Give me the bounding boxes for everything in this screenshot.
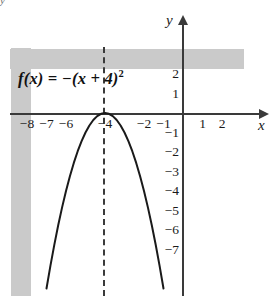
y-tick-label: −1 xyxy=(157,125,179,141)
y-tick-label: −3 xyxy=(157,164,179,180)
function-equation-label: f(x) = −(x + 4)2 xyxy=(18,68,124,89)
y-tick-label: −7 xyxy=(157,242,179,258)
x-tick-label: −4 xyxy=(94,116,116,132)
parabola-curve xyxy=(0,0,275,296)
function-equation-text: f(x) = −(x + 4) xyxy=(18,69,119,88)
function-equation-exponent: 2 xyxy=(119,68,124,79)
y-tick-label: −5 xyxy=(157,203,179,219)
y-tick-label: −6 xyxy=(157,222,179,238)
y-tick-label: 1 xyxy=(157,86,179,102)
y-tick-label: −4 xyxy=(157,183,179,199)
y-tick-label: −2 xyxy=(157,144,179,160)
graph-figure: y y x −8−7−6−4−2−112 21−1−2−3−4−5−6−7 f(… xyxy=(0,0,275,296)
x-tick-label: 2 xyxy=(211,116,233,132)
x-tick-label: −6 xyxy=(55,116,77,132)
y-tick-label: 2 xyxy=(157,66,179,82)
